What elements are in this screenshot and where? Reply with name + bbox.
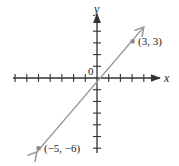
x-axis-label: x [163, 71, 170, 85]
origin-label: 0 [88, 65, 94, 77]
point-3-3-marker [131, 39, 135, 43]
coordinate-plane: x y 0 (3, 3) (−5, −6) [0, 0, 179, 166]
y-axis-label: y [93, 2, 100, 16]
line-through-points [36, 28, 143, 153]
point-neg5-neg6-marker [37, 146, 41, 150]
point-neg5-neg6-label: (−5, −6) [44, 142, 81, 155]
point-3-3-label: (3, 3) [138, 35, 162, 48]
